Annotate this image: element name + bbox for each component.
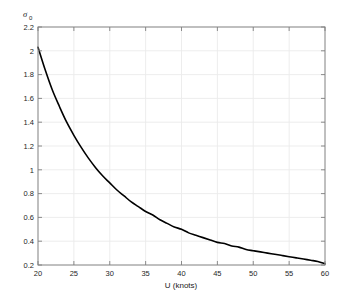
x-tick-label: 60 [321,269,329,278]
x-tick-label: 20 [34,269,42,278]
figure-canvas: 202530354045505560 0.20.40.60.811.21.41.… [0,0,343,302]
y-tick-label: 1 [30,166,34,175]
y-tick-label: 2.2 [24,23,34,32]
y-tick-label: 0.8 [24,189,34,198]
x-tick-label: 35 [141,269,149,278]
x-tick-label: 30 [106,269,114,278]
y-tick-label: 1.4 [24,118,34,127]
x-tick-label: 25 [70,269,78,278]
y-tick-label: 0.4 [24,237,34,246]
y-tick-label: 0.2 [24,261,34,270]
chart-plot: 202530354045505560 0.20.40.60.811.21.41.… [0,0,343,302]
y-tick-label: 2 [30,47,34,56]
x-tick-label: 55 [285,269,293,278]
x-tick-label: 45 [213,269,221,278]
x-tick-label: 40 [177,269,185,278]
y-tick-label: 1.2 [24,142,34,151]
y-tick-label: 1.6 [24,94,34,103]
x-tick-label: 50 [249,269,257,278]
y-tick-label: 1.8 [24,70,34,79]
y-tick-label: 0.6 [24,213,34,222]
x-axis-title: U (knots) [165,281,198,290]
